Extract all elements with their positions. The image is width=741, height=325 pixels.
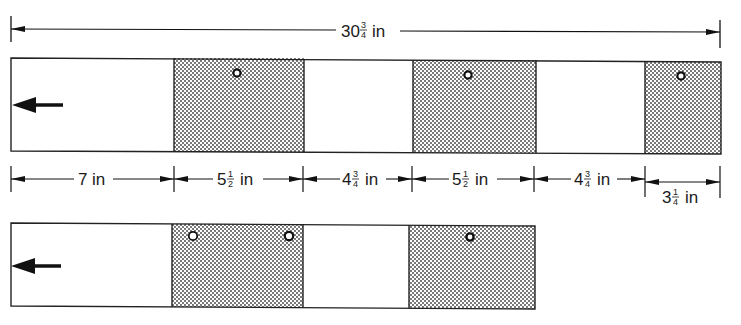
overall-dimension: 30 3 4 in: [11, 16, 720, 48]
svg-text:3: 3: [353, 169, 358, 179]
top-strip: [11, 58, 721, 154]
dimension-label-1: 7: [78, 170, 87, 189]
shaded-segment-2: [413, 60, 536, 153]
svg-text:1: 1: [463, 169, 468, 179]
hole-icon: [233, 69, 240, 76]
overall-dimension-frac-num: 3: [361, 20, 366, 30]
top-strip-outline: [11, 58, 721, 154]
svg-text:in: in: [240, 170, 253, 189]
left-arrow-icon: [12, 97, 63, 113]
hole-icon: [189, 232, 197, 240]
hole-icon: [466, 233, 473, 240]
hole-icon: [464, 71, 471, 78]
svg-text:in: in: [365, 170, 378, 189]
svg-text:in: in: [685, 188, 698, 207]
strip-diagram: 30 3 4 in: [0, 0, 741, 325]
svg-text:3: 3: [585, 169, 590, 179]
segment-dimensions: 7 in 5 1 2 in 4 3 4 in 5 1 2 in 4 3 4 in: [11, 166, 720, 207]
overall-dimension-frac-den: 4: [361, 30, 366, 40]
overall-dimension-whole: 30: [341, 22, 360, 41]
svg-text:in: in: [475, 170, 488, 189]
svg-text:in: in: [597, 170, 610, 189]
dimension-arrow-left-icon: [11, 29, 336, 30]
left-arrow-icon: [11, 258, 61, 274]
svg-text:2: 2: [228, 179, 233, 189]
svg-text:1: 1: [228, 169, 233, 179]
dimension-label-5: 4: [574, 170, 583, 189]
dimension-arrow-right-icon: [400, 31, 720, 32]
dimension-label-2: 5: [217, 170, 226, 189]
dimension-label-6: 3: [662, 188, 671, 207]
svg-text:4: 4: [353, 179, 358, 189]
hole-icon: [285, 232, 293, 240]
overall-dimension-unit: in: [372, 22, 385, 41]
svg-text:in: in: [92, 170, 105, 189]
svg-text:4: 4: [673, 197, 678, 207]
dimension-label-3: 4: [342, 170, 351, 189]
dimension-label-4: 5: [452, 170, 461, 189]
svg-text:4: 4: [585, 179, 590, 189]
bottom-strip: [11, 223, 535, 309]
hole-icon: [677, 72, 684, 79]
svg-text:2: 2: [463, 179, 468, 189]
svg-text:1: 1: [673, 187, 678, 197]
